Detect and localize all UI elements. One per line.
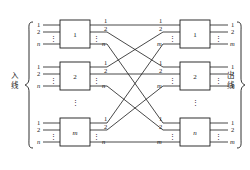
- stage1-b2-in-dots: ⋮: [50, 77, 57, 85]
- stage1-bm-in-label-n: n: [37, 138, 40, 145]
- stage1-b1-out-label-n: n: [102, 40, 105, 47]
- stage1-b2-out-label-1: 1: [104, 59, 107, 66]
- stage1-bm-in-label-1: 1: [37, 119, 40, 126]
- stage2-bn-in-dots: ⋮: [169, 133, 176, 141]
- stage2-b2-in-dots: ⋮: [169, 77, 176, 85]
- stage1-block-2-label: 2: [73, 73, 77, 81]
- input-lines-label-char1: 入: [11, 71, 19, 80]
- stage1-b2-in-label-n: n: [37, 82, 40, 89]
- stage2-b2-out-label-m: m: [230, 82, 235, 89]
- stage2-bn-out-dots: ⋮: [215, 133, 222, 141]
- stage2-b2-out-label-2: 2: [231, 70, 234, 77]
- stage1-b2-in-label-1: 1: [37, 63, 40, 70]
- stage1-column-dots: ⋮: [72, 99, 79, 107]
- stage2-block-2-label: 2: [193, 73, 197, 81]
- stage1-b1-in-dots: ⋮: [50, 35, 57, 43]
- stage2-b1-out-label-1: 1: [231, 21, 234, 28]
- stage1-b2-out-dots: ⋮: [93, 77, 100, 85]
- stage1-b1-out-dots: ⋮: [93, 35, 100, 43]
- stage1-bm-in-dots: ⋮: [50, 133, 57, 141]
- stage1-b1-in-label-1: 1: [37, 21, 40, 28]
- figure-canvas: 入 线 出 线 1 1 2 n ⋮ 1 2 n ⋮ 2 1 2 n ⋮: [0, 0, 250, 170]
- stage2-b1-in-label-2: 2: [159, 25, 162, 32]
- stage2-b2-out-dots: ⋮: [215, 77, 222, 85]
- stage2-b2-in-label-2: 2: [159, 67, 162, 74]
- input-lines-label-char2: 线: [11, 80, 19, 90]
- stage2-b1-out-dots: ⋮: [215, 35, 222, 43]
- stage2-b2-out-label-1: 1: [231, 63, 234, 70]
- stage2-bn-out-label-1: 1: [231, 119, 234, 126]
- stage2-b1-in-label-1: 1: [159, 17, 162, 24]
- stage1-block-m-label: m: [72, 129, 77, 137]
- stage1-bm-out-dots: ⋮: [93, 133, 100, 141]
- stage2-bn-in-label-m: m: [157, 138, 162, 145]
- stage1-b1-in-label-2: 2: [37, 28, 40, 35]
- left-outer-bracket: [25, 22, 33, 148]
- stage1-bm-out-label-1: 1: [104, 115, 107, 122]
- stage2-bn-out-label-m: m: [230, 138, 235, 145]
- stage2-column-dots: ⋮: [192, 99, 199, 107]
- stage1-b2-out-label-n: n: [102, 82, 105, 89]
- stage1-bm-out-label-2: 2: [104, 123, 107, 130]
- stage1-b1-out-label-1: 1: [104, 17, 107, 24]
- switching-network-diagram: 入 线 出 线 1 1 2 n ⋮ 1 2 n ⋮ 2 1 2 n ⋮: [0, 0, 250, 170]
- stage1-bm-out-label-n: n: [102, 138, 105, 145]
- stage1-block-1-label: 1: [73, 31, 77, 39]
- stage1-b2-in-label-2: 2: [37, 70, 40, 77]
- stage1-bm-in-label-2: 2: [37, 126, 40, 133]
- stage2-b1-out-label-2: 2: [231, 28, 234, 35]
- stage1-b2-out-label-2: 2: [104, 67, 107, 74]
- stage2-block-n-label: n: [193, 129, 197, 137]
- stage2-b1-out-label-m: m: [230, 40, 235, 47]
- stage1-b1-out-label-2: 2: [104, 25, 107, 32]
- stage2-block-1-label: 1: [193, 31, 197, 39]
- right-outer-bracket: [237, 22, 245, 148]
- stage2-b2-in-label-m: m: [157, 82, 162, 89]
- stage2-bn-out-label-2: 2: [231, 126, 234, 133]
- stage1-b1-in-label-n: n: [37, 40, 40, 47]
- stage2-b1-in-dots: ⋮: [169, 35, 176, 43]
